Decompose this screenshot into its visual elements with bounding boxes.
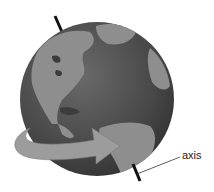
axis-line-bottom <box>133 164 140 181</box>
axis-label: axis <box>182 149 202 161</box>
axis-line-top <box>55 16 62 32</box>
earth-rotation-diagram <box>0 0 214 192</box>
